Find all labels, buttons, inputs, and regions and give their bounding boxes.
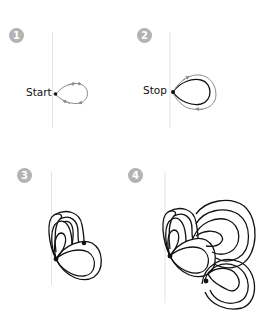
step-1-loop bbox=[54, 83, 88, 103]
step-2-loop bbox=[171, 75, 216, 110]
step-3-motif bbox=[49, 212, 101, 280]
quilting-motif-steps bbox=[0, 0, 264, 315]
stop-dot bbox=[171, 90, 175, 94]
diagram-canvas: 1 2 3 4 Start Stop bbox=[0, 0, 264, 315]
step-4-motif bbox=[163, 200, 255, 309]
start-dot bbox=[54, 92, 58, 96]
